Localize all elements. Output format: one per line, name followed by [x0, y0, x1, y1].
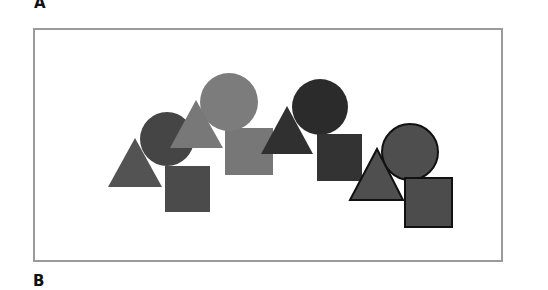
shape-group-4: [350, 124, 452, 227]
shape-group-2: [170, 73, 273, 175]
circle-shape: [200, 73, 258, 131]
shape-group-3: [261, 79, 362, 181]
square-shape: [405, 178, 452, 227]
panel-label-b: B: [33, 274, 44, 289]
square-shape: [317, 134, 362, 181]
circle-shape: [292, 79, 348, 135]
square-shape: [165, 166, 210, 212]
circle-shape: [382, 124, 438, 180]
